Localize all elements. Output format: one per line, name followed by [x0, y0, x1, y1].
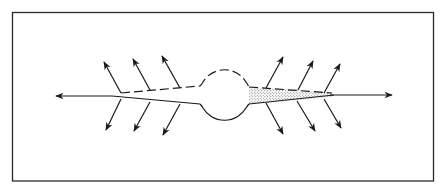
center-circle-bottom [200, 104, 249, 120]
left-tube-lower-edge [112, 96, 200, 104]
arrow-left-lower-1 [106, 99, 121, 130]
diagram-svg [0, 0, 443, 188]
frame-border [13, 13, 434, 182]
arrow-right-upper-2 [298, 61, 313, 90]
arrow-left-upper-3 [162, 56, 180, 88]
center-circle-top [200, 70, 249, 87]
arrow-right-lower-3 [324, 99, 341, 128]
arrow-right-upper-1 [266, 57, 283, 88]
left-tube-upper-edge [121, 86, 200, 93]
arrow-right-upper-3 [324, 64, 340, 93]
diagram-canvas [0, 0, 443, 188]
arrow-left-lower-3 [163, 104, 180, 135]
arrow-left-upper-2 [133, 59, 150, 90]
arrow-left-lower-2 [134, 102, 150, 131]
arrow-right-lower-1 [266, 103, 283, 134]
arrow-right-lower-2 [297, 101, 315, 131]
arrow-left-upper-1 [104, 62, 121, 93]
